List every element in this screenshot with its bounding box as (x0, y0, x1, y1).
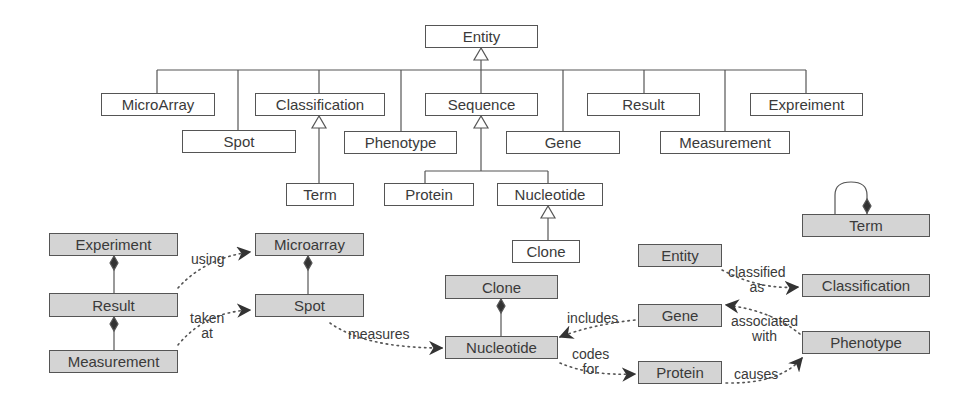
class-label: Sequence (448, 96, 516, 113)
assoc-spot: Spot (255, 294, 364, 317)
class-sequence: Sequence (425, 93, 538, 116)
assoc-gene: Gene (638, 304, 722, 327)
class-label: Nucleotide (515, 186, 586, 203)
edge-label-includes: includes (567, 311, 618, 326)
assoc-entity: Entity (638, 244, 722, 267)
assoc-clone: Clone (445, 275, 558, 299)
class-label: Microarray (274, 236, 345, 253)
class-protein: Protein (384, 183, 474, 206)
class-result: Result (587, 93, 700, 116)
class-label: Clone (482, 279, 521, 296)
class-label: Protein (405, 186, 453, 203)
class-label: Phenotype (830, 334, 902, 351)
inheritance-arrow-icon (474, 116, 488, 128)
class-label: Term (849, 217, 882, 234)
class-label: Protein (656, 364, 704, 381)
class-term: Term (286, 183, 354, 206)
class-label: Clone (526, 243, 565, 260)
assoc-measurement: Measurement (49, 350, 178, 373)
class-clone: Clone (512, 240, 580, 263)
class-label: Expreiment (769, 96, 845, 113)
assoc-result: Result (49, 293, 178, 317)
class-label: Result (92, 297, 135, 314)
class-label: Classification (822, 277, 910, 294)
class-label: MicroArray (122, 96, 195, 113)
class-measurement: Measurement (660, 131, 790, 154)
class-gene: Gene (506, 131, 620, 154)
class-label: Experiment (76, 236, 152, 253)
inheritance-arrow-icon (312, 116, 326, 128)
edge-label-causes: causes (734, 367, 778, 382)
inheritance-arrow-icon (541, 206, 555, 218)
composition-diamond-icon (304, 256, 312, 270)
class-label: Measurement (679, 134, 771, 151)
class-nucleotide: Nucleotide (497, 183, 603, 206)
class-label: Result (622, 96, 665, 113)
assoc-protein: Protein (638, 361, 722, 384)
edge-label-classified-as: classified as (728, 265, 786, 295)
edge-label-associated-with: associated with (731, 314, 798, 344)
class-label: Measurement (68, 353, 160, 370)
class-label: Spot (294, 297, 325, 314)
composition-diamond-icon (497, 299, 505, 313)
class-classification: Classification (255, 93, 385, 116)
class-spot: Spot (182, 130, 296, 153)
assoc-nucleotide: Nucleotide (445, 336, 558, 359)
class-label: Entity (661, 247, 699, 264)
edge-label-codes-for: codes for (572, 347, 609, 377)
class-label: Spot (224, 133, 255, 150)
inheritance-arrow-icon (474, 48, 488, 60)
composition-diamond-icon (110, 256, 118, 270)
class-expreiment: Expreiment (750, 93, 863, 116)
assoc-microarray: Microarray (255, 233, 364, 256)
assoc-term: Term (802, 214, 930, 237)
assoc-phenotype: Phenotype (802, 331, 930, 354)
edge-label-using: using (191, 252, 224, 267)
uml-class-diagram: Entity MicroArray Spot Classification Ph… (0, 0, 977, 403)
assoc-experiment: Experiment (49, 233, 178, 256)
class-label: Phenotype (365, 134, 437, 151)
class-label: Classification (276, 96, 364, 113)
assoc-classification: Classification (802, 274, 930, 297)
class-label: Gene (545, 134, 582, 151)
class-label: Entity (463, 28, 501, 45)
composition-diamond-icon (110, 317, 118, 331)
composition-diamond-icon (863, 199, 871, 213)
edge-label-taken-at: taken at (190, 311, 224, 341)
class-label: Term (303, 186, 336, 203)
class-label: Gene (662, 307, 699, 324)
class-microarray: MicroArray (101, 93, 215, 116)
class-phenotype: Phenotype (344, 131, 457, 154)
edge-label-measures: measures (348, 327, 409, 342)
class-label: Nucleotide (466, 339, 537, 356)
class-entity-root: Entity (425, 25, 538, 48)
